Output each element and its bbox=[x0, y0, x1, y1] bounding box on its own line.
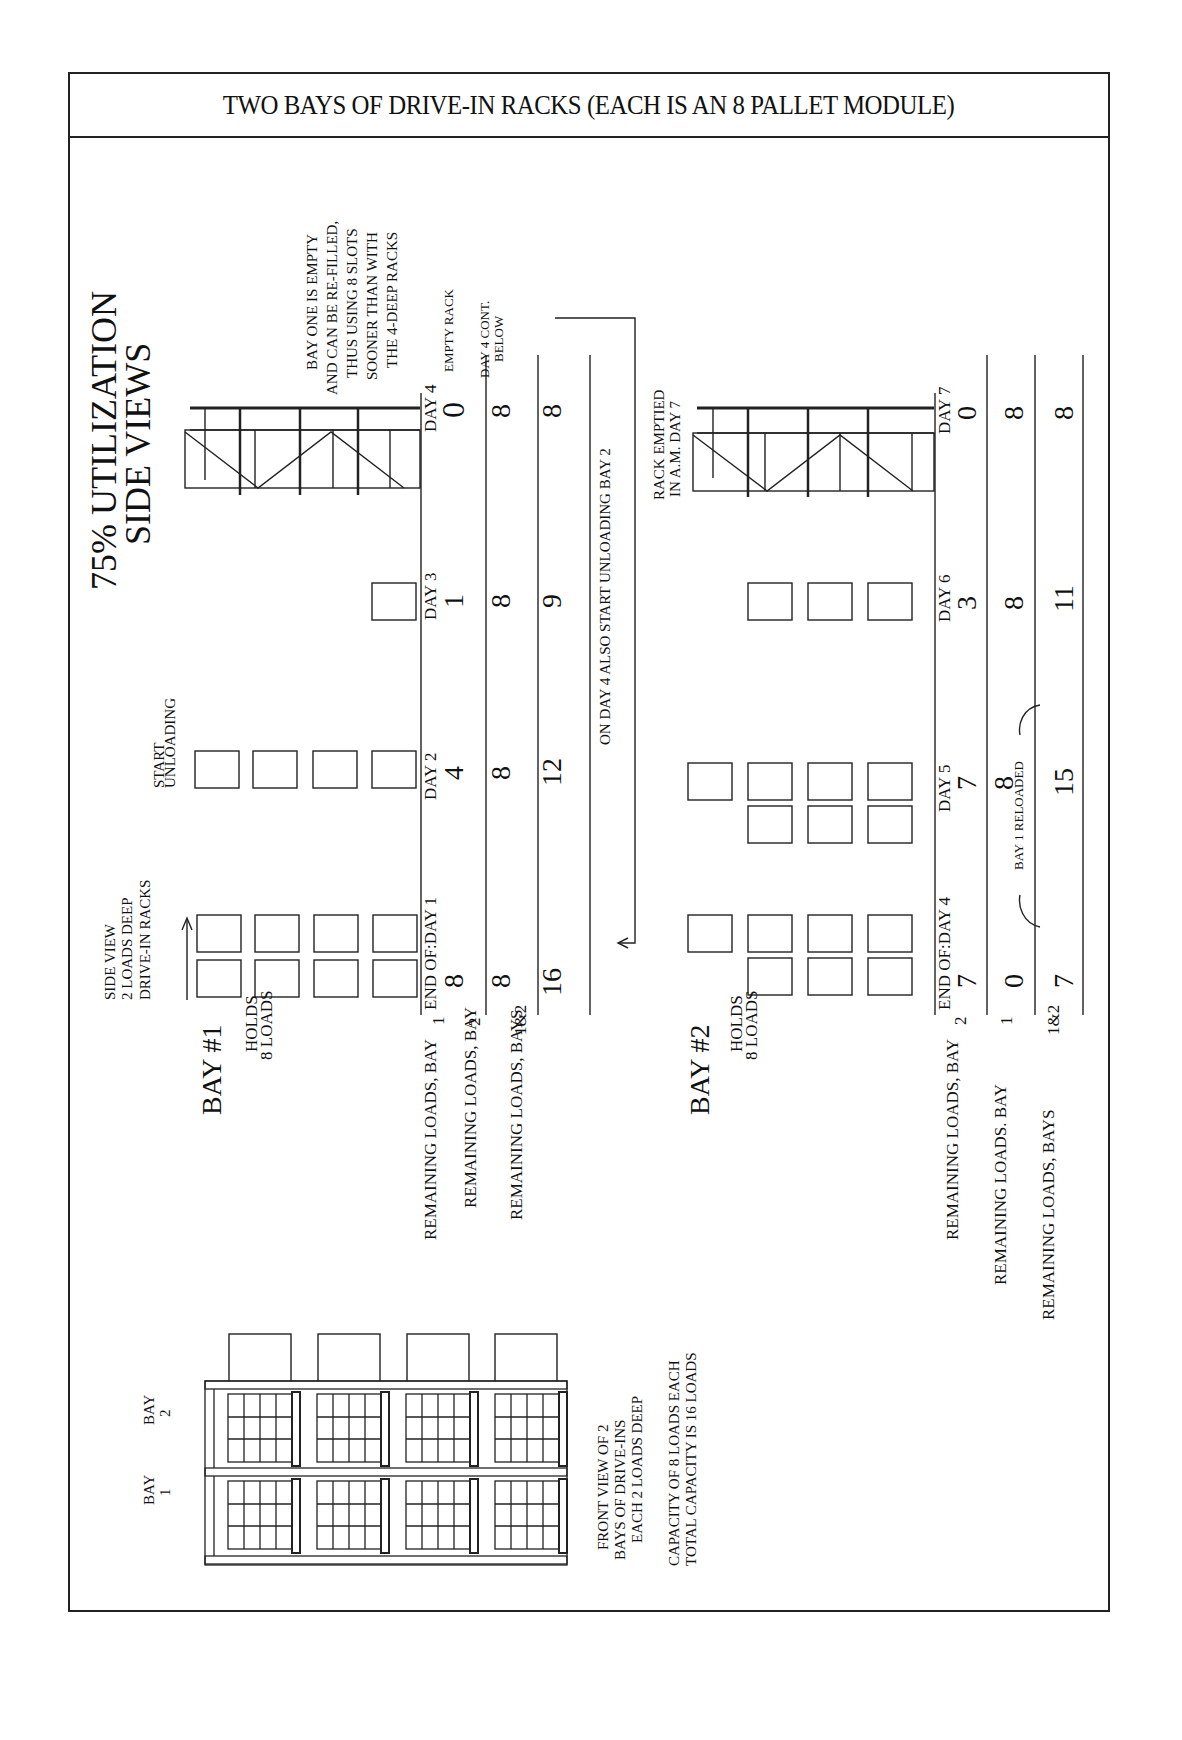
note-empty-rack: EMPTY RACK bbox=[442, 289, 455, 372]
bay1-day1-pallets bbox=[182, 915, 417, 1000]
note-rack-emptied-1: RACK EMPTIED bbox=[652, 390, 667, 500]
note-bay-one-empty-1: BAY ONE IS EMPTY bbox=[305, 234, 320, 370]
bay1-row2-label: REMAINING LOADS, BAY bbox=[462, 1007, 479, 1208]
note-front-view-3: EACH 2 LOADS DEEP bbox=[630, 1396, 645, 1543]
bay2-day6-pallets bbox=[748, 583, 912, 620]
bay1-row2-suffix: 2 bbox=[466, 1018, 483, 1027]
bay1-r2-v4: 8 bbox=[487, 404, 515, 418]
bay1-table-lines bbox=[421, 355, 590, 1015]
bay1-day-header-3: DAY 3 bbox=[422, 573, 439, 620]
bay2-r2-v3: 8 bbox=[1000, 596, 1028, 610]
bay2-label: BAY #2 bbox=[686, 1024, 714, 1115]
bay2-day5-pallets bbox=[688, 763, 912, 843]
bay1-r3-v4: 8 bbox=[538, 404, 566, 418]
note-side-view-3: DRIVE-IN RACKS bbox=[138, 880, 153, 1000]
bay1-row1-suffix: 1 bbox=[430, 1017, 447, 1026]
note-capacity-2: TOTAL CAPACITY IS 16 LOADS bbox=[684, 1352, 699, 1566]
note-bay-one-empty-3: THUS USING 8 SLOTS bbox=[345, 228, 360, 378]
front-bay2-label-2: 2 bbox=[158, 1410, 173, 1418]
front-view bbox=[204, 1380, 568, 1566]
note-rack-emptied-2: IN A.M. DAY 7 bbox=[668, 401, 683, 497]
front-bay1-label-2: 1 bbox=[158, 1489, 173, 1497]
bay1-row3-label: REMAINING LOADS, BAYS bbox=[508, 1010, 525, 1220]
front-bay1-label-1: BAY bbox=[142, 1475, 157, 1505]
bay2-row3-label: REMAINING LOADS, BAYS bbox=[1040, 1110, 1057, 1320]
bay1-r1-v3: 1 bbox=[440, 594, 468, 608]
bay1-r3-v2: 12 bbox=[538, 758, 566, 786]
bay1-row3-suffix: 1&2 bbox=[512, 1005, 529, 1035]
bay2-r3-v1: 7 bbox=[1050, 974, 1078, 988]
bay1-day-header-2: DAY 2 bbox=[422, 753, 439, 800]
bay2-day-header-1: END OF:DAY 4 bbox=[936, 897, 953, 1010]
bay2-r1-v2: 7 bbox=[953, 776, 981, 790]
heading-line1: 75% UTILIZATION bbox=[86, 291, 122, 590]
bay1-r3-v1: 16 bbox=[538, 968, 566, 996]
bay2-r1-v1: 7 bbox=[953, 974, 981, 988]
bay1-day3-pallet bbox=[372, 583, 416, 620]
bay2-day4-pallets bbox=[688, 915, 912, 995]
bay2-row2-label: REMAINING LOADS. BAY bbox=[992, 1084, 1009, 1285]
bay2-r2-v1: 0 bbox=[1000, 974, 1028, 988]
note-side-view-1: SIDE VIEW bbox=[103, 924, 118, 1000]
bay2-table-lines bbox=[935, 355, 1083, 1015]
bay2-r1-v4: 0 bbox=[953, 406, 981, 420]
note-day4-cont-2: BELOW bbox=[492, 316, 505, 362]
bay2-holds-2: 8 LOADS bbox=[743, 991, 760, 1060]
note-front-view-2: BAYS OF DRIVE-INS bbox=[613, 1420, 628, 1560]
note-bay-one-empty-4: SOONER THAN WITH bbox=[365, 232, 380, 380]
bay2-r3-v4: 8 bbox=[1050, 406, 1078, 420]
note-bay1-reloaded: BAY 1 RELOADED bbox=[1012, 761, 1025, 870]
bay2-r3-v3: 11 bbox=[1050, 585, 1078, 612]
note-bay-one-empty-5: THE 4-DEEP RACKS bbox=[385, 232, 400, 368]
note-on-day4: ON DAY 4 ALSO START UNLOADING BAY 2 bbox=[598, 448, 613, 745]
heading-line2: SIDE VIEWS bbox=[120, 343, 156, 545]
bay2-empty-rack bbox=[693, 408, 934, 497]
bay2-row3-suffix: 1&2 bbox=[1045, 1005, 1062, 1035]
note-bay-one-empty-2: AND CAN BE RE-FILLED, bbox=[325, 221, 340, 395]
note-capacity-1: CAPACITY OF 8 LOADS EACH bbox=[667, 1360, 682, 1566]
bay1-r1-v4: 0 bbox=[437, 402, 469, 418]
day4-connector bbox=[555, 318, 635, 943]
bay2-row2-suffix: 1 bbox=[998, 1017, 1015, 1026]
note-side-view-2: 2 LOADS DEEP bbox=[120, 897, 135, 1000]
bay1-r1-v2: 4 bbox=[440, 766, 468, 780]
bay2-r3-v2: 15 bbox=[1050, 768, 1078, 796]
bay2-r2-v4: 8 bbox=[1000, 406, 1028, 420]
diagram-drawing bbox=[0, 0, 1182, 1740]
note-day4-cont-1: DAY 4 CONT. bbox=[478, 301, 491, 378]
note-front-view-1: FRONT VIEW OF 2 bbox=[596, 1425, 611, 1550]
bay1-r2-v2: 8 bbox=[487, 766, 515, 780]
bay1-r2-v3: 8 bbox=[487, 594, 515, 608]
bay1-holds-2: 8 LOADS bbox=[258, 991, 275, 1060]
bay1-label: BAY #1 bbox=[198, 1024, 226, 1115]
note-start-unloading-2: UNLOADING bbox=[163, 698, 178, 788]
bay2-row1-label: REMAINING LOADS, BAY bbox=[944, 1039, 961, 1240]
bay1-day-header-1: END OF:DAY 1 bbox=[422, 897, 439, 1010]
bay2-row1-suffix: 2 bbox=[952, 1017, 969, 1026]
bay1-row1-label: REMAINING LOADS, BAY bbox=[422, 1039, 439, 1240]
bay1-r2-v1: 8 bbox=[487, 974, 515, 988]
front-bay2-label-1: BAY bbox=[142, 1395, 157, 1425]
bay1-r3-v3: 9 bbox=[538, 594, 566, 608]
bay1-r1-v1: 8 bbox=[440, 974, 468, 988]
bay2-r1-v3: 3 bbox=[953, 596, 981, 610]
bay1-day2-pallets bbox=[195, 751, 416, 788]
bay1-empty-rack bbox=[185, 408, 420, 495]
